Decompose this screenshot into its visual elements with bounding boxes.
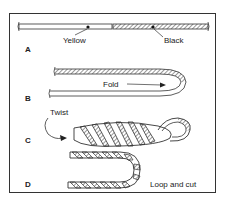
step-label-c: C: [25, 136, 31, 145]
label-black: Black: [164, 36, 184, 45]
cord-step-d: [68, 152, 140, 188]
cord-step-a: [18, 22, 209, 37]
label-twist: Twist: [50, 108, 68, 117]
cord-step-c: [45, 118, 190, 146]
step-label-b: B: [25, 94, 31, 103]
step-label-a: A: [25, 45, 31, 54]
label-loop-and-cut: Loop and cut: [150, 180, 196, 189]
label-fold: Fold: [103, 80, 119, 89]
step-label-d: D: [25, 180, 31, 189]
label-yellow: Yellow: [63, 36, 86, 45]
rope-illustration: [0, 0, 225, 210]
